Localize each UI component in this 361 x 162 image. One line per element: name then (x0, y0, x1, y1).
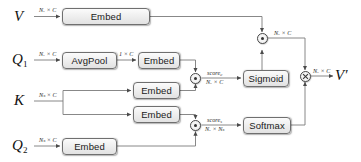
wire-k-to-embed-bottom (63, 101, 131, 115)
block-label: Embed (91, 11, 122, 22)
block-embed-q1[interactable]: Embed (138, 52, 180, 69)
attention-diagram: V Q1 K Q2 V′ Embed AvgPool Embed Embed E… (0, 0, 361, 162)
input-symbol-v: V (14, 9, 23, 24)
wire-embedv-to-gate (150, 17, 262, 33)
score-c-name: score (207, 69, 220, 76)
block-avgpool-q1[interactable]: AvgPool (62, 52, 117, 69)
block-sigmoid[interactable]: Sigmoid (243, 70, 289, 87)
edge-label-q1-pooled: 1 × C (119, 50, 134, 57)
input-symbol-q1: Q1 (12, 52, 28, 69)
edge-label-score-c: scorec (207, 69, 222, 77)
input-symbol-k: K (14, 93, 24, 108)
edge-label-score-s-dim: Nᵥ × Nₛ (205, 125, 224, 132)
q1-subscript: 1 (23, 59, 28, 69)
block-label: Embed (141, 85, 172, 96)
block-label: Embed (74, 141, 105, 152)
wire-embedktop-to-dotc (180, 84, 196, 91)
block-softmax[interactable]: Softmax (243, 117, 291, 134)
wire-gate-to-times (268, 38, 305, 70)
operator-dot-spatial[interactable] (190, 120, 201, 131)
edge-label-score-c-dim: Nᵥ × C (206, 78, 223, 85)
block-label: Embed (144, 55, 175, 66)
edge-label-q1-in: Nᵥ × C (39, 50, 56, 57)
edge-label-k-in: Nₛ × C (39, 91, 57, 98)
operator-times-output[interactable] (300, 71, 311, 82)
score-c-subscript: c (220, 72, 222, 77)
score-s-subscript: s (220, 119, 222, 124)
block-label: Softmax (249, 120, 285, 131)
block-label: AvgPool (72, 55, 108, 66)
edge-label-q2-in: Nₛ × C (39, 136, 57, 143)
edge-label-v-in: Nᵥ × C (39, 6, 56, 13)
operator-dot-gate[interactable] (257, 33, 268, 44)
block-label: Embed (141, 109, 172, 120)
input-symbol-q2: Q2 (12, 138, 28, 155)
block-label: Sigmoid (248, 73, 283, 84)
block-embed-q2[interactable]: Embed (62, 138, 117, 155)
edge-label-score-s: scores (207, 116, 222, 124)
block-embed-k-bottom[interactable]: Embed (133, 106, 180, 123)
block-embed-v[interactable]: Embed (62, 8, 150, 25)
output-symbol-v-prime: V′ (335, 68, 347, 83)
wire-embedq1-to-dotc (180, 60, 196, 72)
prime-mark: ′ (344, 67, 347, 83)
score-s-name: score (207, 116, 220, 123)
wire-k-to-embed-top (63, 91, 131, 102)
edge-label-gated-v: Nᵥ × C (274, 29, 291, 36)
block-embed-k-top[interactable]: Embed (133, 82, 180, 99)
wire-embedkbot-to-dots (180, 115, 196, 120)
q2-subscript: 2 (23, 145, 28, 155)
operator-dot-channel[interactable] (190, 73, 201, 84)
edge-label-output-dim: Nᵥ × C (313, 67, 330, 74)
wire-softmax-to-times (291, 82, 305, 125)
wire-embedq2-to-dots (117, 132, 196, 147)
